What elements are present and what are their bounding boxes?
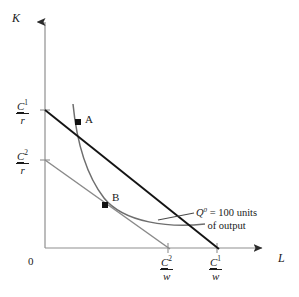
y-int-1-denominator: r	[16, 114, 29, 127]
point-b-marker	[102, 202, 108, 208]
x-intercept-label-c1-over-w: C1 w	[209, 256, 222, 282]
cost-minimization-figure	[0, 0, 299, 297]
isoquant-annotation-q-rest: = 100 units	[207, 207, 257, 218]
origin-label: 0	[28, 256, 34, 267]
x-int-1-superscript: 1	[217, 254, 221, 263]
l-axis-label: L	[278, 252, 285, 264]
y-int-2-superscript: 2	[24, 148, 28, 157]
y-int-1-superscript: 1	[24, 98, 28, 107]
point-a-label: A	[85, 114, 93, 125]
isoquant-annotation: Q0 = 100 units of output	[196, 206, 257, 232]
y-intercept-label-c2-over-r: C2 r	[16, 150, 29, 176]
k-axis-label: K	[12, 12, 20, 24]
point-b-label: B	[112, 192, 119, 203]
isoquant-annotation-line-1: Q0 = 100 units	[196, 206, 257, 219]
x-int-1-denominator: w	[209, 270, 222, 283]
isoquant-annotation-line-2: of output	[196, 219, 257, 232]
y-int-2-denominator: r	[16, 164, 29, 177]
x-intercept-label-c2-over-w: C2 w	[160, 256, 173, 282]
isoquant-annotation-q-symbol: Q	[196, 207, 204, 218]
x-int-2-superscript: 2	[168, 254, 172, 263]
point-a-marker	[75, 119, 81, 125]
x-int-2-denominator: w	[160, 270, 173, 283]
y-intercept-label-c1-over-r: C1 r	[16, 100, 29, 126]
